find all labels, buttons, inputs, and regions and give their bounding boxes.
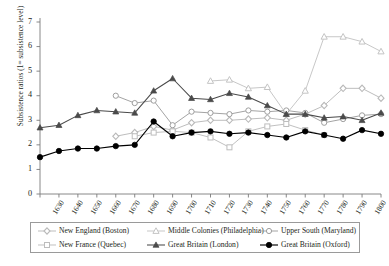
legend-marker-triangle-open-light [146,226,166,236]
marker-diamond-open [264,115,270,121]
marker-circle-open [322,120,327,125]
legend-item[interactable]: Upper South (Maryland) [259,224,356,238]
data-point-marker [265,124,270,129]
marker-circle-filled [227,131,232,136]
marker-circle-open [227,112,232,117]
marker-circle-filled [303,129,308,134]
data-point-marker [378,131,383,136]
marker-square-open [170,129,175,134]
legend-label: Middle Colonies (Philadelphia) [168,226,264,236]
data-point-marker [208,135,213,140]
data-point-marker [189,109,194,114]
data-point-marker [56,122,62,127]
marker-diamond-open [113,133,119,139]
data-point-marker [322,120,327,125]
marker-triangle-filled [170,75,176,80]
marker-circle-filled [265,132,270,137]
marker-circle-filled [246,130,251,135]
data-point-marker [340,136,345,141]
data-point-marker [113,93,118,98]
legend-marker-circle-filled-black [259,240,279,250]
legend-item[interactable]: Great Britain (London) [146,238,238,252]
legend-marker-diamond-open-light [37,226,57,236]
legend-marker-triangle-filled-dark [146,240,166,250]
data-point-marker [246,108,251,113]
marker-circle-open [246,108,251,113]
data-point-marker [245,116,251,122]
data-point-marker [226,117,232,123]
marker-circle-filled [170,134,175,139]
legend-marker-circle-open [259,226,279,236]
data-point-marker [303,129,308,134]
data-point-marker [264,84,270,90]
legend-label: Upper South (Maryland) [281,226,356,236]
marker-triangle-open [226,77,232,83]
series-line [211,37,382,114]
marker-circle-open [266,228,271,233]
marker-triangle-filled [226,90,232,95]
data-point-marker [266,242,271,247]
marker-triangle-filled [94,107,100,112]
legend-label: New England (Boston) [59,226,129,236]
marker-circle-filled [56,148,61,153]
data-point-marker [45,243,50,248]
data-point-marker [265,109,270,114]
data-point-marker [264,115,270,121]
data-point-marker [113,143,118,148]
data-point-marker [208,129,213,134]
marker-circle-filled [208,129,213,134]
marker-diamond-open [359,85,365,91]
marker-square-open [45,243,50,248]
marker-circle-open [132,100,137,105]
marker-triangle-filled [56,122,62,127]
marker-square-open [208,135,213,140]
legend-label: New France (Quebec) [59,240,126,250]
subsistence-ratios-line-chart: Subsistence ratios (1= subsistence level… [0,0,389,266]
marker-triangle-open [378,48,384,54]
data-point-marker [56,148,61,153]
data-point-marker [227,131,232,136]
marker-square-open [151,130,156,135]
marker-triangle-filled [151,88,157,93]
marker-circle-filled [284,135,289,140]
data-point-marker [359,85,365,91]
marker-circle-open [170,123,175,128]
marker-square-open [227,145,232,150]
legend-item[interactable]: Great Britain (Oxford) [259,238,350,252]
data-point-marker [189,120,195,126]
legend-item[interactable]: Middle Colonies (Philadelphia) [146,224,264,238]
data-point-marker [227,112,232,117]
marker-diamond-open [245,116,251,122]
legend-item[interactable]: New England (Boston) [37,224,129,238]
marker-square-open [132,134,137,139]
legend-item[interactable]: New France (Quebec) [37,238,126,252]
data-point-marker [246,130,251,135]
data-point-marker [359,127,364,132]
marker-circle-filled [378,131,383,136]
marker-triangle-filled [340,114,346,119]
marker-circle-filled [321,132,326,137]
legend-label: Great Britain (Oxford) [281,240,350,250]
data-point-marker [132,142,137,147]
data-point-marker [170,134,175,139]
data-point-marker [302,88,308,94]
data-point-marker [227,145,232,150]
data-point-marker [226,90,232,95]
marker-diamond-open [378,95,384,101]
marker-circle-open [113,93,118,98]
marker-triangle-open [264,84,270,90]
data-point-marker [151,130,156,135]
marker-circle-filled [113,143,118,148]
data-point-marker [170,75,176,80]
data-point-marker [321,132,326,137]
marker-circle-filled [359,127,364,132]
marker-square-open [265,124,270,129]
marker-diamond-open [208,117,214,123]
marker-triangle-open [302,88,308,94]
data-point-marker [170,129,175,134]
marker-circle-filled [266,242,271,247]
data-point-marker [266,228,271,233]
data-point-marker [378,95,384,101]
marker-diamond-open [226,117,232,123]
data-point-marker [284,121,289,126]
